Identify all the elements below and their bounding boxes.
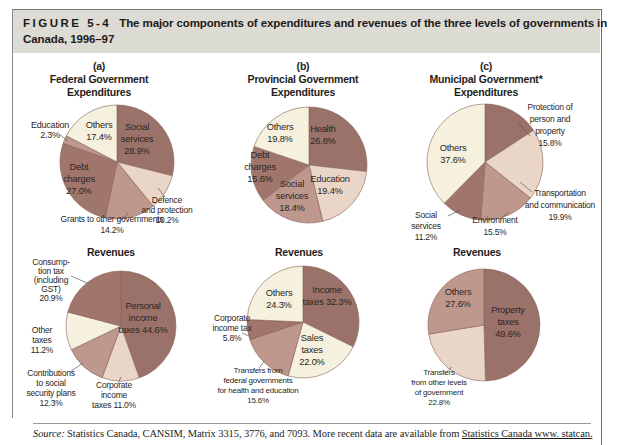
provincial-expenditures-title: (b)Provincial GovernmentExpenditures [248,60,359,98]
chart-municipal-expenditures: (c)Municipal Government*ExpendituresProt… [408,56,615,246]
social-services-label: Socialservices28.9% [121,122,154,156]
environment-label: Environment15.5% [472,215,518,237]
page: FIGURE 5-4The major components of expend… [0,0,617,445]
education-label: Education2.3% [31,120,69,140]
federal-revenues-title: Revenues [87,246,135,258]
other-taxes-label: Othertaxes11.2% [31,325,54,355]
chart-federal-expenditures: (a)Federal GovernmentExpendituresSocials… [15,56,215,243]
chart-municipal-revenues: RevenuesPropertytaxes49.6%Transfersfrom … [408,243,608,423]
figure-number: FIGURE 5-4 [23,17,111,29]
social-services-label: Socialservices18.4% [276,179,309,213]
transportation-and-communication-label: Transportationand communication19.9% [525,188,596,222]
federal-expenditures-figure: (a)Federal GovernmentExpendituresSocials… [15,56,215,243]
municipal-expenditures-title: (c)Municipal Government*Expenditures [429,60,543,98]
corporate-income-taxes-label: Corporateincometaxes 11.0% [92,380,137,410]
source-body: Statistics Canada, CANSIM, Matrix 3315, … [65,428,462,439]
source-link: Statistics Canada www. statcan. [462,428,593,439]
contributions-to-social-security-plans-label: Contributionsto socialsecurity plans12.3… [26,368,75,408]
social-services-label: Socialservices11.2% [411,210,441,242]
municipal-revenues-figure: RevenuesPropertytaxes49.6%Transfersfrom … [408,243,608,423]
municipal-expenditures-figure: (c)Municipal Government*ExpendituresProt… [408,56,615,246]
consumption-tax-including-gst-leader-line [71,276,87,283]
chart-provincial-expenditures: (b)Provincial GovernmentExpendituresHeal… [212,56,412,243]
figure-title-line1: The major components of expenditures and… [119,17,607,29]
federal-expenditures-title: (a)Federal GovernmentExpenditures [50,60,149,98]
source-note: Source: Statistics Canada, CANSIM, Matri… [33,428,611,439]
figure-border-left [12,9,13,418]
source-divider [33,423,591,424]
corporate-income-tax-label: Corporateincome tax5.8% [212,313,252,343]
source-prefix: Source: [33,428,65,439]
consumption-tax-including-gst-label: Consump-tion tax(includingGST)20.9% [32,257,70,303]
sales-taxes-label: Salestaxes22.0% [299,333,324,367]
provincial-expenditures-figure: (b)Provincial GovernmentExpendituresHeal… [212,56,412,243]
figure-header: FIGURE 5-4The major components of expend… [13,10,600,53]
figure-title-line2: Canada, 1996–97 [23,33,114,45]
grants-to-other-governments-label: Grants to other governments14.2% [61,214,164,235]
chart-federal-revenues: RevenuesPersonalincometaxes 44.6%Corpora… [15,243,215,423]
provincial-revenues-figure: RevenuesIncometaxes 32.3%Salestaxes22.0%… [212,243,412,423]
chart-provincial-revenues: RevenuesIncometaxes 32.3%Salestaxes22.0%… [212,243,412,423]
municipal-revenues-title: Revenues [453,246,501,258]
federal-revenues-figure: RevenuesPersonalincometaxes 44.6%Corpora… [15,243,215,423]
provincial-revenues-title: Revenues [275,246,323,258]
